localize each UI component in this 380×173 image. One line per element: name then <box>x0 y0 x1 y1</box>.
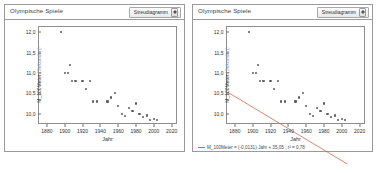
y-axis-tick-label: 12,0 <box>214 29 224 35</box>
y-axis-tick-mark <box>226 113 229 114</box>
scatter-plot-right: M_100Meter (Sekunden) Jahr 10,010,511,01… <box>226 26 365 124</box>
screenshot-root: Olympische Spiele Streudiagramm M_100Met… <box>0 0 380 173</box>
plot-type-select-right[interactable]: Streudiagramm <box>317 7 369 18</box>
y-axis-label-text: M_100Meter <box>36 75 42 103</box>
window-body-left: M_100Meter (Sekunden) Jahr 10,010,511,01… <box>5 20 184 152</box>
scatter-window-right: Olympische Spiele Streudiagramm M_100Met… <box>192 4 373 152</box>
data-point[interactable] <box>121 113 123 115</box>
scatter-plot-left: M_100Meter (Sekunden) Jahr 10,010,511,01… <box>38 26 177 124</box>
x-axis-tick-label: 1940 <box>283 128 294 134</box>
data-point[interactable] <box>74 80 76 82</box>
y-axis-tick-mark <box>226 72 229 73</box>
x-axis-tick-mark <box>270 124 271 127</box>
regression-line <box>226 26 365 124</box>
x-axis-tick-label: 1960 <box>113 128 124 134</box>
plot-type-label-right: Streudiagramm <box>322 9 356 15</box>
window-header-left: Olympische Spiele Streudiagramm <box>5 5 184 20</box>
y-axis-tick-mark <box>38 93 41 94</box>
x-axis-tick-label: 1920 <box>77 128 88 134</box>
y-axis-tick-mark <box>226 52 229 53</box>
x-axis-tick-label: 1880 <box>41 128 52 134</box>
y-axis-tick-label: 12,0 <box>26 29 36 35</box>
data-point[interactable] <box>294 100 296 102</box>
data-point[interactable] <box>106 100 108 102</box>
data-point[interactable] <box>323 102 325 104</box>
x-axis-tick-label: 1960 <box>301 128 312 134</box>
data-point[interactable] <box>96 100 98 102</box>
data-point[interactable] <box>262 80 264 82</box>
y-axis-tick-mark <box>226 32 229 33</box>
x-axis-tick-mark <box>153 124 154 127</box>
data-point[interactable] <box>81 80 83 82</box>
x-axis-tick-label: 1980 <box>130 128 141 134</box>
page-title-right: Olympische Spiele <box>198 7 251 14</box>
window-body-right: M_100Meter (Sekunden) Jahr 10,010,511,01… <box>193 20 372 152</box>
y-axis-tick-mark <box>38 72 41 73</box>
x-axis-tick-label: 2000 <box>148 128 159 134</box>
data-point[interactable] <box>257 64 259 66</box>
y-axis-tick-mark <box>38 52 41 53</box>
x-axis-tick-mark <box>359 124 360 127</box>
x-axis-tick-label: 1920 <box>265 128 276 134</box>
scatter-window-left: Olympische Spiele Streudiagramm M_100Met… <box>4 4 185 152</box>
x-axis-tick-mark <box>306 124 307 127</box>
data-point[interactable] <box>252 72 254 74</box>
y-axis-tick-mark <box>38 32 41 33</box>
x-axis-tick-mark <box>341 124 342 127</box>
window-header-right: Olympische Spiele Streudiagramm <box>193 5 372 20</box>
x-axis-tick-label: 2020 <box>354 128 365 134</box>
chevron-updown-icon[interactable] <box>359 8 366 17</box>
x-axis-tick-label: 1900 <box>59 128 70 134</box>
x-axis-tick-mark <box>64 124 65 127</box>
y-axis-tick-label: 10,5 <box>26 90 36 96</box>
x-axis-tick-mark <box>100 124 101 127</box>
data-point[interactable] <box>277 80 279 82</box>
x-axis-tick-label: 1880 <box>229 128 240 134</box>
x-axis-tick-mark <box>118 124 119 127</box>
y-axis-label: M_100Meter (Sekunden) <box>36 47 42 102</box>
data-point[interactable] <box>284 100 286 102</box>
regression-equation-text: M_100Meter = (-0,0131)·Jahr + 35,05 ; r²… <box>207 145 305 150</box>
data-point[interactable] <box>110 96 112 98</box>
x-axis-tick-label: 1980 <box>318 128 329 134</box>
page-title: Olympische Spiele <box>10 7 63 14</box>
plot-type-select-left[interactable]: Streudiagramm <box>129 7 181 18</box>
y-axis-tick-label: 11,5 <box>214 50 223 56</box>
y-axis-tick-label: 11,0 <box>214 70 223 76</box>
y-axis-tick-mark <box>226 93 229 94</box>
chevron-updown-icon[interactable] <box>171 8 178 17</box>
x-axis-tick-mark <box>82 124 83 127</box>
data-point[interactable] <box>69 64 71 66</box>
x-axis-tick-mark <box>252 124 253 127</box>
data-point[interactable] <box>135 102 137 104</box>
x-axis-tick-mark <box>171 124 172 127</box>
regression-equation-legend: M_100Meter = (-0,0131)·Jahr + 35,05 ; r²… <box>198 145 305 150</box>
x-axis-tick-mark <box>288 124 289 127</box>
y-axis-label: M_100Meter (Sekunden) <box>224 47 230 102</box>
x-axis-tick-mark <box>324 124 325 127</box>
plot-frame <box>38 26 177 124</box>
x-axis-tick-label: 1900 <box>247 128 258 134</box>
data-point[interactable] <box>334 114 336 116</box>
y-axis-tick-label: 11,0 <box>26 70 35 76</box>
x-axis-tick-mark <box>234 124 235 127</box>
x-axis-tick-label: 1940 <box>95 128 106 134</box>
data-point[interactable] <box>309 113 311 115</box>
y-axis-tick-label: 11,5 <box>26 50 35 56</box>
y-axis-tick-label: 10,0 <box>214 111 224 117</box>
x-axis-tick-mark <box>136 124 137 127</box>
data-point[interactable] <box>146 114 148 116</box>
y-axis-label-text: M_100Meter <box>224 75 230 103</box>
data-point[interactable] <box>269 80 271 82</box>
y-axis-tick-label: 10,5 <box>214 90 224 96</box>
x-axis-tick-mark <box>46 124 47 127</box>
x-axis-label: Jahr <box>102 136 113 142</box>
data-point[interactable] <box>298 96 300 98</box>
data-point[interactable] <box>89 80 91 82</box>
x-axis-label: Jahr <box>290 136 301 142</box>
y-axis-tick-label: 10,0 <box>26 111 36 117</box>
data-point[interactable] <box>64 72 66 74</box>
y-axis-tick-mark <box>38 113 41 114</box>
legend-line-swatch <box>198 147 205 148</box>
x-axis-tick-label: 2020 <box>166 128 177 134</box>
